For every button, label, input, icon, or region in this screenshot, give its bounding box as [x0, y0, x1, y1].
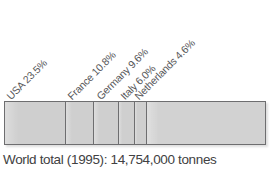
category-label-usa: USA 23.5%: [4, 57, 48, 101]
bar-segment-france: [66, 102, 94, 144]
bar-segment-netherlands: [135, 102, 147, 144]
chart-caption: World total (1995): 14,754,000 tonnes: [3, 152, 216, 167]
stacked-bar: [4, 101, 266, 145]
stacked-bar-chart: USA 23.5% France 10.8% Germany 9.6% Ital…: [0, 0, 272, 181]
bar-segment-usa: [5, 102, 66, 144]
category-labels-layer: USA 23.5% France 10.8% Germany 9.6% Ital…: [0, 0, 272, 101]
bar-segment-italy: [119, 102, 135, 144]
bar-segment-germany: [94, 102, 119, 144]
bar-segment-other: [147, 102, 265, 144]
